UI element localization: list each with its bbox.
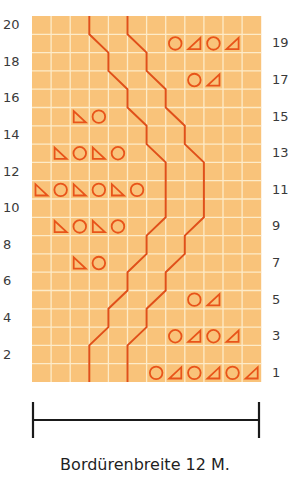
row-number-label: 17 — [272, 73, 290, 86]
row-number-label: 7 — [272, 256, 290, 269]
row-number-label: 6 — [3, 274, 27, 287]
row-number-label: 12 — [3, 165, 27, 178]
row-number-label: 14 — [3, 128, 27, 141]
row-number-label: 19 — [272, 36, 290, 49]
row-number-label: 10 — [3, 201, 27, 214]
row-number-label: 1 — [272, 366, 290, 379]
knitting-chart — [0, 0, 290, 487]
row-number-label: 15 — [272, 110, 290, 123]
row-number-label: 9 — [272, 219, 290, 232]
row-number-label: 4 — [3, 311, 27, 324]
row-number-label: 2 — [3, 348, 27, 361]
row-number-label: 20 — [3, 18, 27, 31]
width-scale-bar — [33, 402, 259, 438]
row-number-label: 3 — [272, 329, 290, 342]
row-number-label: 16 — [3, 91, 27, 104]
row-number-label: 13 — [272, 146, 290, 159]
row-number-label: 18 — [3, 55, 27, 68]
row-number-label: 5 — [272, 293, 290, 306]
chart-caption: Bordürenbreite 12 M. — [0, 455, 290, 474]
row-number-label: 8 — [3, 238, 27, 251]
row-number-label: 11 — [272, 183, 290, 196]
